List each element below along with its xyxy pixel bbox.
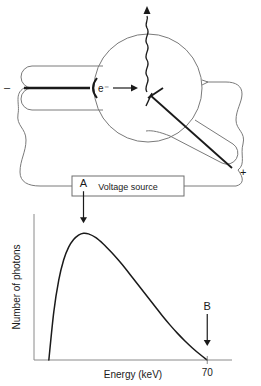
annotation-arrowhead <box>80 217 87 223</box>
x-axis-tick-labels: 70 <box>202 367 214 378</box>
xray-photon-wave <box>146 16 148 92</box>
x-ray-tube-diagram: – + e⁻ Voltage source <box>4 6 246 196</box>
annotation-label-a: A <box>80 177 88 189</box>
xray-photon-arrowhead <box>144 6 151 14</box>
electron-beam-arrow <box>113 85 138 92</box>
anode-sign: + <box>240 166 246 178</box>
circuit-wire-positive-lower <box>184 170 242 186</box>
cathode-focusing-cup <box>93 78 97 98</box>
tube-right-terminal-stub <box>202 80 208 85</box>
figure-root: – + e⁻ Voltage source 70 AB Energy (keV) <box>0 0 261 386</box>
y-axis-label: Number of photons <box>11 244 22 329</box>
anode-target-bevel <box>146 93 152 106</box>
cathode-neck-lower <box>21 88 103 110</box>
bremsstrahlung-spectrum-chart: 70 AB Energy (keV) Number of photons <box>11 177 232 380</box>
diagram-canvas: – + e⁻ Voltage source 70 AB Energy (keV) <box>0 0 261 386</box>
annotation-b: B <box>204 300 211 346</box>
spectrum-curve <box>49 233 207 360</box>
anode-stem <box>150 95 232 168</box>
x-axis-tick-label: 70 <box>202 367 214 378</box>
cathode-sign: – <box>4 81 11 93</box>
circuit-wire-negative <box>18 88 72 186</box>
annotation-a: A <box>80 177 88 223</box>
cathode-neck-upper <box>21 66 103 88</box>
anode-neck-joint <box>146 131 170 136</box>
annotation-label-b: B <box>204 300 211 312</box>
x-axis-label: Energy (keV) <box>104 369 162 380</box>
chart-annotations: AB <box>80 177 211 346</box>
annotation-arrowhead <box>204 340 211 346</box>
electron-label: e⁻ <box>98 83 109 94</box>
circuit-wire-positive-upper <box>206 82 244 170</box>
voltage-source-label: Voltage source <box>98 182 158 192</box>
